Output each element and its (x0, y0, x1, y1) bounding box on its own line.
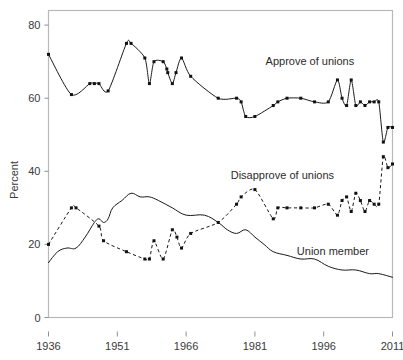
data-point-marker (97, 225, 100, 228)
data-point-marker (162, 60, 165, 63)
data-point-marker (75, 206, 78, 209)
data-point-marker (386, 166, 389, 169)
data-point-marker (345, 195, 348, 198)
data-point-marker (286, 97, 289, 100)
data-point-marker (165, 67, 168, 70)
chart-background (0, 0, 403, 360)
data-point-marker (336, 78, 339, 81)
y-tick-label-60: 60 (28, 92, 40, 104)
x-tick-label-2011: 2011 (381, 340, 403, 352)
x-tick-label-1966: 1966 (174, 340, 198, 352)
data-point-marker (47, 53, 50, 56)
data-point-marker (143, 258, 146, 261)
series-label-union-member: Union member (297, 245, 369, 257)
data-point-marker (217, 97, 220, 100)
data-point-marker (313, 100, 316, 103)
data-point-marker (235, 97, 238, 100)
data-point-marker (253, 115, 256, 118)
chart-container: 020406080 193619511966198119962011 Perce… (0, 0, 403, 360)
data-point-marker (240, 100, 243, 103)
data-point-marker (244, 115, 247, 118)
percent-over-time-line-chart: 020406080 193619511966198119962011 Perce… (0, 0, 403, 360)
data-point-marker (299, 97, 302, 100)
data-point-marker (240, 195, 243, 198)
data-point-marker (93, 82, 96, 85)
data-point-marker (368, 199, 371, 202)
data-point-marker (368, 100, 371, 103)
data-point-marker (336, 214, 339, 217)
data-point-marker (391, 126, 394, 129)
data-point-marker (276, 206, 279, 209)
data-point-marker (341, 199, 344, 202)
data-point-marker (102, 239, 105, 242)
data-point-marker (166, 71, 169, 74)
series-label-approve-of-unions: Approve of unions (266, 55, 355, 67)
x-tick-label-1936: 1936 (36, 340, 60, 352)
data-point-marker (382, 141, 385, 144)
data-point-marker (272, 217, 275, 220)
y-tick-label-40: 40 (28, 165, 40, 177)
data-point-marker (373, 100, 376, 103)
x-tick-label-1981: 1981 (243, 340, 267, 352)
data-point-marker (130, 42, 133, 45)
x-tick-label-1996: 1996 (311, 340, 335, 352)
data-point-marker (97, 82, 100, 85)
data-point-marker (377, 203, 380, 206)
data-point-marker (327, 100, 330, 103)
y-tick-label-0: 0 (34, 312, 40, 324)
data-point-marker (253, 188, 256, 191)
data-point-marker (175, 71, 178, 74)
data-point-marker (152, 60, 155, 63)
data-point-marker (363, 104, 366, 107)
data-point-marker (382, 155, 385, 158)
y-axis-title: Percent (8, 161, 20, 199)
data-point-marker (359, 199, 362, 202)
data-point-marker (373, 203, 376, 206)
data-point-marker (125, 250, 128, 253)
data-point-marker (148, 258, 151, 261)
data-point-marker (152, 239, 155, 242)
data-point-marker (189, 232, 192, 235)
data-point-marker (350, 78, 353, 81)
data-point-marker (345, 104, 348, 107)
data-point-marker (70, 93, 73, 96)
x-tick-label-1951: 1951 (105, 340, 129, 352)
data-point-marker (189, 75, 192, 78)
data-point-marker (377, 100, 380, 103)
series-label-disapprove-of-unions: Disapprove of unions (231, 169, 335, 181)
data-point-marker (171, 228, 174, 231)
data-point-marker (47, 243, 50, 246)
data-point-marker (354, 192, 357, 195)
data-point-marker (125, 42, 128, 45)
data-point-marker (391, 163, 394, 166)
data-point-marker (235, 203, 238, 206)
data-point-marker (88, 82, 91, 85)
data-point-marker (180, 247, 183, 250)
data-point-marker (286, 206, 289, 209)
data-point-marker (107, 89, 110, 92)
data-point-marker (359, 100, 362, 103)
data-point-marker (327, 203, 330, 206)
data-point-marker (341, 97, 344, 100)
data-point-marker (171, 82, 174, 85)
data-point-marker (354, 104, 357, 107)
data-point-marker (162, 258, 165, 261)
data-point-marker (148, 82, 151, 85)
data-point-marker (70, 206, 73, 209)
data-point-marker (313, 206, 316, 209)
data-point-marker (272, 104, 275, 107)
data-point-marker (350, 210, 353, 213)
data-point-marker (276, 100, 279, 103)
data-point-marker (363, 210, 366, 213)
data-point-marker (180, 57, 183, 60)
data-point-marker (299, 206, 302, 209)
y-tick-label-80: 80 (28, 19, 40, 31)
data-point-marker (143, 57, 146, 60)
y-tick-label-20: 20 (28, 238, 40, 250)
data-point-marker (175, 236, 178, 239)
data-point-marker (386, 126, 389, 129)
